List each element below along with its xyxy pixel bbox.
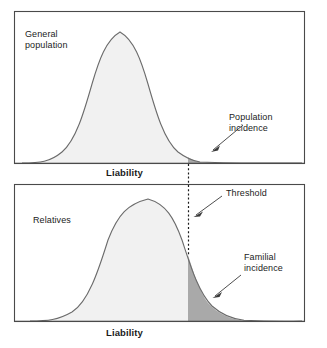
general-population-label-line2: population bbox=[25, 40, 68, 51]
familial-incidence-arrow bbox=[213, 275, 242, 298]
threshold-arrow bbox=[194, 196, 223, 217]
liability-axis-label-top: Liability bbox=[106, 167, 143, 178]
population-incidence-label-line1: Population bbox=[229, 112, 273, 123]
threshold-label: Threshold bbox=[226, 188, 267, 199]
liability-axis-label-bottom: Liability bbox=[106, 327, 143, 338]
panel-general-population bbox=[15, 12, 305, 164]
relatives-label: Relatives bbox=[33, 215, 71, 226]
liability-threshold-figure: General population Population incidence … bbox=[0, 0, 327, 348]
familial-incidence-label-line2: incidence bbox=[244, 263, 283, 274]
population-incidence-label-line2: incidence bbox=[229, 123, 268, 134]
familial-incidence-label-line1: Familial bbox=[244, 252, 276, 263]
general-population-curve-fill bbox=[22, 32, 302, 163]
general-population-label-line1: General bbox=[25, 29, 58, 40]
figure-canvas bbox=[0, 0, 327, 348]
